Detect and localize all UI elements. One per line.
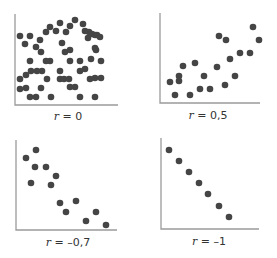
data-point — [67, 47, 74, 54]
data-point — [222, 82, 229, 89]
data-point — [22, 41, 29, 48]
data-point — [23, 155, 30, 162]
data-point — [227, 56, 234, 63]
data-point — [23, 72, 30, 79]
data-point — [32, 164, 39, 171]
data-point — [38, 49, 45, 56]
data-point — [180, 63, 187, 70]
correlation-figure: r = 0 r = 0,5 r = –0,7 r = –1 — [0, 0, 277, 258]
data-point — [197, 86, 204, 93]
data-point — [256, 37, 263, 44]
label-value: = –0,7 — [51, 236, 90, 249]
data-point — [48, 94, 55, 101]
data-point — [88, 56, 95, 63]
data-point — [57, 20, 64, 27]
scatter-plots-canvas — [0, 0, 277, 258]
data-point — [176, 158, 183, 165]
data-point — [27, 33, 34, 40]
data-point — [17, 76, 24, 83]
data-point — [17, 33, 24, 40]
data-point — [77, 58, 84, 65]
data-point — [37, 37, 44, 44]
data-point — [73, 198, 80, 205]
data-point — [27, 58, 34, 65]
data-point — [63, 209, 70, 216]
data-point — [207, 86, 214, 93]
data-point — [98, 75, 105, 82]
data-point — [223, 37, 230, 44]
data-point — [43, 58, 50, 65]
scatter-plot-r-0 — [15, 14, 118, 105]
data-point — [172, 92, 179, 99]
data-point — [33, 44, 40, 51]
data-point — [87, 76, 94, 83]
data-point — [34, 68, 41, 75]
label-value: = –1 — [197, 235, 226, 248]
data-point — [214, 64, 221, 71]
data-point — [23, 85, 30, 92]
data-point — [67, 23, 74, 30]
data-point — [201, 73, 208, 80]
data-point — [187, 92, 194, 99]
data-point — [67, 58, 74, 65]
data-point — [176, 78, 183, 85]
data-point — [44, 76, 51, 83]
data-point — [216, 203, 223, 210]
data-point — [57, 200, 64, 207]
data-point — [98, 58, 105, 65]
label-value: = 0,5 — [194, 109, 228, 122]
data-point — [103, 222, 110, 229]
data-point — [92, 45, 99, 52]
data-point — [196, 180, 203, 187]
data-point — [57, 68, 64, 75]
data-point — [77, 68, 84, 75]
data-point — [186, 169, 193, 176]
data-point — [192, 60, 199, 67]
data-point — [72, 17, 79, 24]
scatter-plot-r-neg-1 — [161, 138, 259, 229]
label-r-0-5: r = 0,5 — [189, 109, 228, 122]
data-point — [83, 218, 90, 225]
data-point — [47, 24, 54, 31]
data-point — [28, 180, 35, 187]
data-point — [72, 84, 79, 91]
data-point — [167, 79, 174, 86]
data-point — [77, 94, 84, 101]
scatter-plot-r-0-5 — [160, 13, 262, 103]
data-point — [17, 86, 24, 93]
scatter-plot-r-neg-0-7 — [16, 140, 117, 230]
data-point — [237, 50, 244, 57]
label-r-neg-1: r = –1 — [192, 235, 226, 248]
data-point — [232, 73, 239, 80]
label-r-neg-0-7: r = –0,7 — [46, 236, 90, 249]
data-point — [247, 50, 254, 57]
data-point — [216, 33, 223, 40]
data-point — [250, 24, 257, 31]
label-value: = 0 — [59, 110, 82, 123]
data-point — [53, 28, 60, 35]
data-point — [53, 173, 60, 180]
data-point — [33, 147, 40, 154]
label-r-0: r = 0 — [54, 110, 82, 123]
data-point — [59, 40, 66, 47]
data-point — [43, 164, 50, 171]
data-point — [38, 85, 45, 92]
data-point — [80, 21, 87, 28]
data-point — [226, 214, 233, 221]
data-point — [92, 94, 99, 101]
data-point — [93, 209, 100, 216]
data-point — [27, 94, 34, 101]
data-point — [166, 147, 173, 154]
data-point — [63, 29, 70, 36]
axes — [161, 138, 259, 229]
data-point — [205, 191, 212, 198]
data-point — [97, 34, 104, 41]
data-point — [66, 76, 73, 83]
data-point — [33, 94, 40, 101]
data-point — [48, 182, 55, 189]
